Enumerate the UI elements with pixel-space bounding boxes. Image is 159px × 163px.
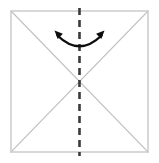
origami-diagram-container <box>0 0 159 163</box>
origami-diagram-svg <box>0 0 159 163</box>
